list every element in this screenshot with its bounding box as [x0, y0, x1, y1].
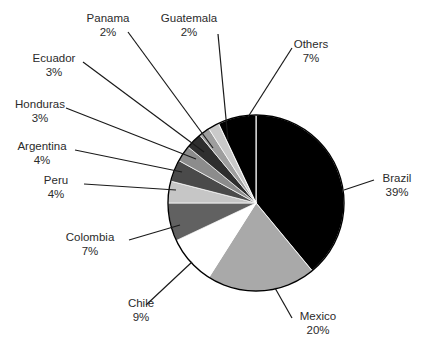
slice-label-ecuador: Ecuador 3%: [28, 52, 80, 79]
slice-label-guatemala: Guatemala 2%: [157, 12, 221, 39]
slice-label-argentina: Argentina 4%: [13, 140, 71, 167]
leader-line-brazil: [344, 180, 374, 190]
slice-label-peru: Peru 4%: [36, 174, 76, 201]
slice-label-colombia-value: 7%: [59, 245, 121, 259]
slice-label-mexico-name: Mexico: [294, 310, 342, 324]
slice-label-honduras-name: Honduras: [12, 98, 68, 112]
slice-label-honduras-value: 3%: [12, 112, 68, 126]
slice-label-chile: Chile 9%: [120, 297, 162, 324]
slice-label-chile-value: 9%: [120, 311, 162, 325]
slice-label-mexico: Mexico 20%: [294, 310, 342, 337]
pie-slices-group: [168, 115, 344, 291]
slice-label-panama-name: Panama: [82, 12, 134, 26]
slice-label-others-name: Others: [288, 38, 334, 52]
slice-label-peru-value: 4%: [36, 188, 76, 202]
slice-label-argentina-value: 4%: [13, 154, 71, 168]
slice-label-brazil-value: 39%: [376, 186, 418, 200]
slice-label-brazil-name: Brazil: [376, 172, 418, 186]
slice-label-guatemala-name: Guatemala: [157, 12, 221, 26]
slice-label-chile-name: Chile: [120, 297, 162, 311]
pie-chart-figure: Panama 2% Guatemala 2% Others 7% Ecuador…: [0, 0, 428, 350]
leader-line-panama: [128, 32, 213, 148]
slice-label-panama: Panama 2%: [82, 12, 134, 39]
slice-label-ecuador-name: Ecuador: [28, 52, 80, 66]
leader-line-honduras: [66, 108, 196, 159]
slice-label-peru-name: Peru: [36, 174, 76, 188]
slice-label-guatemala-value: 2%: [157, 26, 221, 40]
slice-label-honduras: Honduras 3%: [12, 98, 68, 125]
slice-label-colombia-name: Colombia: [59, 231, 121, 245]
slice-label-colombia: Colombia 7%: [59, 231, 121, 258]
slice-label-others: Others 7%: [288, 38, 334, 65]
slice-label-ecuador-value: 3%: [28, 66, 80, 80]
slice-label-brazil: Brazil 39%: [376, 172, 418, 199]
slice-label-mexico-value: 20%: [294, 324, 342, 338]
slice-label-argentina-name: Argentina: [13, 140, 71, 154]
leader-line-argentina: [75, 150, 182, 172]
leader-line-peru: [84, 184, 176, 190]
slice-label-others-value: 7%: [288, 52, 334, 66]
leader-line-others: [248, 48, 292, 117]
slice-label-panama-value: 2%: [82, 26, 134, 40]
leader-line-mexico: [275, 288, 292, 318]
